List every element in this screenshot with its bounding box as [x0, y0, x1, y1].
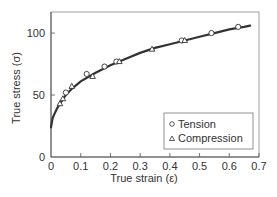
x-axis-label: True strain (ε): [110, 172, 177, 184]
tension-point: [84, 71, 89, 76]
x-tick-label: 0.2: [103, 160, 118, 172]
fit-curve: [51, 26, 250, 128]
data-points: [57, 24, 241, 105]
tension-point: [236, 24, 241, 29]
y-tick-label: 100: [27, 27, 45, 39]
x-tick-label: 0.3: [132, 160, 147, 172]
circle-marker-icon: [170, 122, 175, 127]
stress-strain-chart: 00.10.20.30.40.50.60.7 050100 Tension Co…: [0, 0, 277, 197]
y-tick-label: 0: [39, 151, 45, 163]
x-tick-label: 0.6: [222, 160, 237, 172]
x-tick-label: 0.7: [251, 160, 266, 172]
y-tick-label: 50: [33, 89, 45, 101]
x-tick-label: 0: [48, 160, 54, 172]
x-tick-label: 0.1: [73, 160, 88, 172]
x-ticks: 00.10.20.30.40.50.60.7: [48, 153, 267, 172]
tension-point: [63, 90, 68, 95]
x-tick-label: 0.4: [162, 160, 177, 172]
y-axis-label: True stress (σ): [10, 52, 22, 124]
tension-point: [102, 64, 107, 69]
legend-compression: Compression: [178, 132, 243, 144]
legend: Tension Compression: [164, 113, 253, 149]
tension-point: [209, 30, 214, 35]
legend-tension: Tension: [178, 118, 216, 130]
x-tick-label: 0.5: [192, 160, 207, 172]
